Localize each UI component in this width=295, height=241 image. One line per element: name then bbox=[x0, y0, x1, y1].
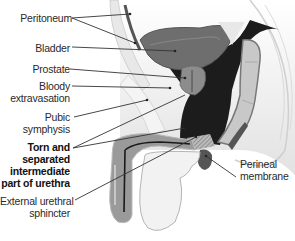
label-torn-urethra-3: intermediate bbox=[0, 165, 70, 177]
urethra-injury-diagram: Peritoneum Bladder Prostate Bloody extra… bbox=[0, 0, 295, 241]
label-bloody-extravasation-1: Bloody bbox=[0, 80, 70, 92]
label-bloody-extravasation-2: extravasation bbox=[0, 92, 70, 104]
scrotum bbox=[140, 151, 200, 230]
label-torn-urethra-1: Torn and bbox=[0, 141, 70, 153]
label-external-urethral-sphincter-1: External urethral bbox=[0, 195, 72, 207]
label-perineal-membrane-2: membrane bbox=[240, 170, 289, 182]
label-pubic-symphysis-1: Pubic bbox=[0, 111, 70, 123]
label-peritoneum: Peritoneum bbox=[0, 12, 72, 24]
label-torn-urethra-2: separated bbox=[0, 153, 70, 165]
label-perineal-membrane-1: Perineal bbox=[240, 158, 277, 170]
label-torn-urethra-4: part of urethra bbox=[0, 177, 70, 189]
label-pubic-symphysis-2: symphysis bbox=[0, 123, 70, 135]
label-bladder: Bladder bbox=[0, 42, 70, 54]
label-external-urethral-sphincter-2: sphincter bbox=[0, 207, 70, 219]
label-prostate: Prostate bbox=[0, 63, 70, 75]
